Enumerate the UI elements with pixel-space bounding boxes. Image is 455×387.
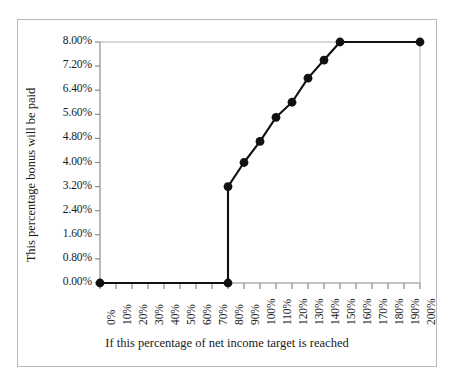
y-tick-label: 2.40% xyxy=(44,203,92,215)
chart-figure: This percentage bonus will be paid 0.00%… xyxy=(0,0,455,387)
data-point xyxy=(224,279,233,288)
x-tick-label: 170% xyxy=(377,299,389,325)
x-tick-label: 150% xyxy=(345,299,357,325)
y-tick-label: 4.80% xyxy=(44,130,92,142)
x-tick-label: 0% xyxy=(105,310,117,325)
y-tick-label: 0.00% xyxy=(44,275,92,287)
x-tick-label: 30% xyxy=(153,304,165,325)
data-point xyxy=(304,74,313,83)
y-axis-title: This percentage bonus will be paid xyxy=(24,60,39,290)
x-tick-label: 110% xyxy=(281,299,293,325)
x-tick-label: 10% xyxy=(121,304,133,325)
y-tick-label: 4.00% xyxy=(44,155,92,167)
x-tick-label: 200% xyxy=(425,299,437,325)
x-tick-label: 130% xyxy=(313,299,325,325)
x-tick-label: 120% xyxy=(297,299,309,325)
x-tick-label: 140% xyxy=(329,299,341,325)
y-tick-label: 8.00% xyxy=(44,34,92,46)
y-tick-label: 1.60% xyxy=(44,227,92,239)
x-tick-label: 60% xyxy=(201,304,213,325)
data-point xyxy=(288,98,297,107)
x-tick-label: 100% xyxy=(265,299,277,325)
y-tick-label: 0.80% xyxy=(44,251,92,263)
y-tick-label: 3.20% xyxy=(44,179,92,191)
data-point xyxy=(272,113,281,122)
x-tick-label: 80% xyxy=(233,304,245,325)
data-line xyxy=(100,42,420,283)
y-tick-label: 7.20% xyxy=(44,58,92,70)
y-tick-marks xyxy=(95,42,100,283)
x-axis-title: If this percentage of net income target … xyxy=(17,336,437,351)
data-markers xyxy=(96,38,425,288)
data-point xyxy=(320,56,329,65)
x-tick-label: 190% xyxy=(409,299,421,325)
data-point xyxy=(240,158,249,167)
data-point xyxy=(336,38,345,47)
x-tick-label: 50% xyxy=(185,304,197,325)
x-tick-label: 40% xyxy=(169,304,181,325)
x-tick-label: 20% xyxy=(137,304,149,325)
y-tick-label: 5.60% xyxy=(44,106,92,118)
x-tick-label: 160% xyxy=(361,299,373,325)
data-point xyxy=(224,182,233,191)
data-point xyxy=(416,38,425,47)
y-tick-label: 6.40% xyxy=(44,82,92,94)
x-tick-label: 90% xyxy=(249,304,261,325)
data-point xyxy=(256,137,265,146)
x-tick-label: 180% xyxy=(393,299,405,325)
x-tick-label: 70% xyxy=(217,304,229,325)
data-point xyxy=(96,279,105,288)
